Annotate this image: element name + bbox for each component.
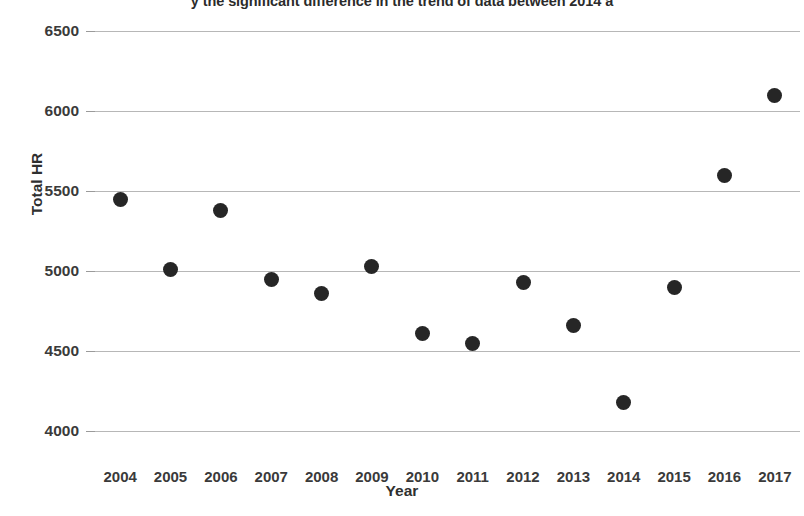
data-point	[264, 272, 279, 287]
data-point	[163, 262, 178, 277]
gridline	[95, 271, 800, 272]
scatter-chart: Total HR 4000450050005500600065002004200…	[0, 0, 804, 516]
y-axis-tick-mark	[86, 31, 95, 32]
x-axis-title: Year	[0, 482, 804, 500]
y-axis-tick-label: 4000	[9, 423, 79, 439]
data-point	[616, 395, 631, 410]
data-point	[415, 326, 430, 341]
y-axis-tick-label: 6000	[9, 103, 79, 119]
data-point	[667, 280, 682, 295]
y-axis-tick-mark	[86, 111, 95, 112]
data-point	[717, 168, 732, 183]
gridline	[95, 111, 800, 112]
data-point	[465, 336, 480, 351]
data-point	[314, 286, 329, 301]
data-point	[113, 192, 128, 207]
data-point	[566, 318, 581, 333]
data-point	[213, 203, 228, 218]
y-axis-tick-mark	[86, 431, 95, 432]
gridline	[95, 431, 800, 432]
y-axis-tick-label: 6500	[9, 23, 79, 39]
gridline	[95, 191, 800, 192]
gridline	[95, 351, 800, 352]
data-point	[767, 88, 782, 103]
y-axis-tick-label: 4500	[9, 343, 79, 359]
y-axis-tick-mark	[86, 271, 95, 272]
data-point	[516, 275, 531, 290]
plot-area: 4000450050005500600065002004200520062007…	[95, 31, 800, 431]
y-axis-tick-mark	[86, 191, 95, 192]
y-axis-tick-label: 5500	[9, 183, 79, 199]
y-axis-tick-label: 5000	[9, 263, 79, 279]
gridline	[95, 31, 800, 32]
y-axis-tick-mark	[86, 351, 95, 352]
